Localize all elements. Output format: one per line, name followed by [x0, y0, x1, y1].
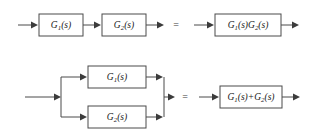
svg-text:G1(s)G2(s): G1(s)G2(s)	[228, 20, 269, 31]
series-result-block: G1(s)G2(s)	[215, 14, 281, 36]
series-input-wire	[18, 22, 38, 29]
parallel-block-g2-arg: (s)	[117, 112, 127, 123]
svg-text:G2(s): G2(s)	[114, 20, 134, 31]
parallel-output-wire	[164, 94, 175, 101]
parallel-block-g2: G2(s)	[88, 106, 146, 128]
parallel-result-input-wire	[199, 94, 219, 101]
svg-text:G1(s): G1(s)	[107, 72, 127, 83]
parallel-equals-sign: =	[182, 91, 188, 102]
svg-text:G2(s): G2(s)	[107, 112, 127, 123]
block-diagram-figure: G1(s) G2(s) =	[0, 0, 314, 134]
series-result-g2-arg: (s)	[258, 20, 268, 31]
parallel-result-g1-arg: (s)	[238, 92, 248, 103]
series-output-wire	[146, 22, 164, 29]
parallel-result-block: G1(s)+G2(s)	[220, 86, 282, 108]
series-result-output-wire	[281, 22, 299, 29]
parallel-lower-branch-wire	[61, 114, 87, 121]
svg-text:G1(s): G1(s)	[51, 20, 71, 31]
series-equals-sign: =	[173, 19, 179, 30]
parallel-upper-branch-wire	[61, 74, 87, 81]
series-result-g1-arg: (s)	[238, 20, 248, 31]
series-block-g1-arg: (s)	[61, 20, 71, 31]
series-block-g2-arg: (s)	[124, 20, 134, 31]
parallel-result-g2-arg: (s)	[264, 92, 274, 103]
parallel-lower-merge-wire	[146, 114, 163, 121]
parallel-result-output-wire	[282, 94, 300, 101]
series-mid-wire	[83, 22, 101, 29]
series-block-g1: G1(s)	[39, 14, 83, 36]
parallel-upper-merge-wire	[146, 74, 163, 81]
parallel-input-wire	[25, 94, 61, 101]
series-result-input-wire	[194, 22, 214, 29]
series-block-g2: G2(s)	[102, 14, 146, 36]
parallel-block-g1-arg: (s)	[117, 72, 127, 83]
parallel-block-g1: G1(s)	[88, 66, 146, 88]
